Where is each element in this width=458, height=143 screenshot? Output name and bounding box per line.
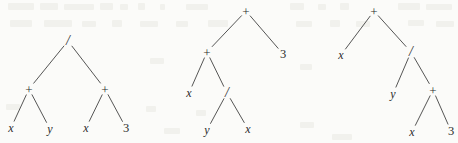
tree-node-constant-3: 3 (448, 125, 454, 138)
tree-edge (415, 96, 430, 125)
tree-edge (396, 58, 408, 87)
tree-node-operator-plus: + (370, 5, 377, 18)
tree-node-variable-x: x (409, 126, 414, 138)
tree-3: +x/y+x3 (0, 0, 458, 143)
tree-node-variable-x: x (338, 49, 343, 61)
tree-node-variable-y: y (390, 88, 395, 100)
tree-edge (346, 16, 371, 49)
expression-trees-figure: /++xyx3++3x/yx+x/y+x3 (0, 0, 458, 143)
tree-node-operator-slash: / (409, 45, 413, 59)
tree-node-operator-plus: + (429, 84, 436, 97)
tree-edge (414, 58, 429, 84)
tree-3-edges (0, 0, 458, 143)
tree-edge (378, 16, 406, 47)
tree-edge (436, 96, 448, 124)
